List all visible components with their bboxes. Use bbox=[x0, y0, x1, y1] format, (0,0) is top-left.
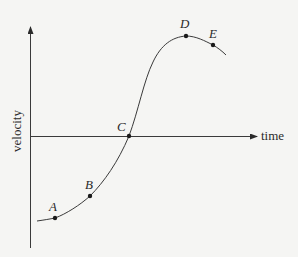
point-e-label: E bbox=[208, 26, 217, 41]
y-axis-label: velocity bbox=[9, 110, 24, 152]
point-e-marker bbox=[211, 43, 215, 47]
point-a-label: A bbox=[48, 199, 57, 214]
point-a-marker bbox=[53, 216, 57, 220]
point-c-label: C bbox=[117, 119, 126, 134]
x-axis-label: time bbox=[261, 128, 284, 143]
point-d-marker bbox=[184, 34, 188, 38]
point-c-marker bbox=[127, 134, 131, 138]
point-b-marker bbox=[88, 194, 92, 198]
point-d-label: D bbox=[179, 16, 190, 31]
velocity-curve bbox=[37, 36, 226, 221]
point-b-label: B bbox=[85, 177, 93, 192]
velocity-time-diagram: time velocity A B C D E bbox=[0, 0, 298, 257]
